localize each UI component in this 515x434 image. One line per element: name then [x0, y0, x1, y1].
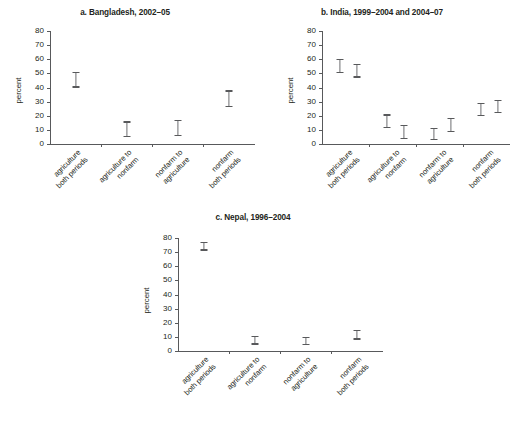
panel-bangladesh: a. Bangladesh, 2002–05 percent 80 70 60 …: [0, 8, 258, 213]
errorbar-a-2: [172, 120, 184, 136]
y-tick-a-30: [47, 102, 50, 103]
y-tick-b-0: [319, 144, 322, 145]
errorbar-cap-top: [337, 59, 344, 60]
errorbar-b-2-s2: [445, 118, 457, 132]
errorbar-cap-bottom: [337, 72, 344, 73]
errorbar-cap-bottom: [448, 131, 455, 132]
y-tick-b-40: [319, 88, 322, 89]
y-tick-b-10: [319, 130, 322, 131]
errorbar-cap-top: [252, 336, 259, 337]
x-tick-c-3: [331, 351, 332, 354]
y-axis-label-b: percent: [286, 69, 295, 113]
errorbar-b-1-s2: [398, 125, 410, 139]
y-axis-line-b: [322, 31, 323, 144]
errorbar-cap-top: [401, 125, 408, 126]
y-tick-label-a-7: 70: [24, 40, 44, 49]
errorbar-stem: [126, 121, 127, 137]
y-tick-label-a-5: 50: [24, 68, 44, 77]
errorbar-b-1-s1: [381, 114, 393, 128]
errorbar-b-3-s1: [475, 103, 487, 116]
errorbar-cap-bottom: [431, 139, 438, 140]
errorbar-cap-bottom: [175, 135, 182, 136]
errorbar-cap-top: [73, 72, 80, 73]
y-tick-a-20: [47, 116, 50, 117]
errorbar-cap-bottom: [495, 112, 502, 113]
x-tick-b-2: [416, 144, 417, 147]
errorbar-cap-top: [226, 90, 233, 91]
errorbar-cap-bottom: [401, 138, 408, 139]
y-tick-label-a-1: 10: [24, 125, 44, 134]
errorbar-cap-top: [175, 120, 182, 121]
y-tick-label-b-7: 70: [296, 40, 316, 49]
y-tick-label-c-7: 70: [152, 247, 172, 256]
errorbar-cap-bottom: [354, 338, 361, 339]
errorbar-b-0-s2: [351, 64, 363, 78]
panel-title-a: a. Bangladesh, 2002–05: [0, 8, 250, 17]
y-tick-a-10: [47, 130, 50, 131]
errorbar-a-0: [70, 72, 82, 88]
errorbar-cap-top: [431, 128, 438, 129]
x-tick-a-3: [203, 144, 204, 147]
errorbar-c-2: [300, 337, 312, 346]
errorbar-c-0: [198, 242, 210, 251]
y-axis-line-a: [50, 31, 51, 144]
errorbar-stem: [75, 72, 76, 88]
errorbar-b-3-s2: [492, 100, 504, 113]
errorbar-stem: [228, 90, 229, 107]
errorbar-cap-bottom: [226, 106, 233, 107]
x-tick-c-1: [229, 351, 230, 354]
y-tick-c-70: [175, 252, 178, 253]
errorbar-cap-top: [303, 337, 310, 338]
errorbar-cap-top: [354, 330, 361, 331]
errorbar-cap-bottom: [124, 136, 131, 137]
errorbar-cap-top: [448, 118, 455, 119]
x-tick-a-2: [152, 144, 153, 147]
y-axis-line-c: [178, 238, 179, 351]
x-tick-c-2: [280, 351, 281, 354]
y-tick-label-b-6: 60: [296, 54, 316, 63]
y-tick-label-c-5: 50: [152, 275, 172, 284]
errorbar-cap-top: [201, 242, 208, 243]
y-tick-label-b-4: 40: [296, 83, 316, 92]
y-tick-label-a-8: 80: [24, 26, 44, 35]
y-tick-label-b-1: 10: [296, 125, 316, 134]
y-tick-c-80: [175, 238, 178, 239]
y-tick-label-a-3: 30: [24, 97, 44, 106]
errorbar-cap-bottom: [201, 249, 208, 250]
y-tick-a-0: [47, 144, 50, 145]
plot-area-c: 80 70 60 50 40 30 20 10 0: [178, 238, 383, 351]
y-axis-label-a: percent: [14, 69, 23, 113]
y-tick-c-20: [175, 323, 178, 324]
y-tick-c-50: [175, 280, 178, 281]
y-axis-label-c: percent: [142, 279, 151, 323]
y-tick-label-b-5: 50: [296, 68, 316, 77]
y-tick-label-c-8: 80: [152, 233, 172, 242]
y-tick-a-60: [47, 59, 50, 60]
y-tick-label-a-0: 0: [24, 139, 44, 148]
errorbar-cap-top: [495, 100, 502, 101]
y-tick-label-b-3: 30: [296, 97, 316, 106]
x-tick-a-1: [101, 144, 102, 147]
y-tick-label-c-1: 10: [152, 332, 172, 341]
y-tick-label-c-6: 60: [152, 261, 172, 270]
y-tick-c-60: [175, 266, 178, 267]
y-tick-label-c-2: 20: [152, 318, 172, 327]
y-tick-b-20: [319, 116, 322, 117]
figure-container: a. Bangladesh, 2002–05 percent 80 70 60 …: [0, 0, 515, 434]
y-tick-label-b-8: 80: [296, 26, 316, 35]
y-tick-a-50: [47, 73, 50, 74]
errorbar-b-0-s1: [334, 59, 346, 73]
y-tick-label-c-3: 30: [152, 304, 172, 313]
errorbar-cap-top: [478, 103, 485, 104]
y-tick-b-80: [319, 31, 322, 32]
y-tick-label-a-4: 40: [24, 83, 44, 92]
panel-nepal: c. Nepal, 1996–2004 percent 80 70 60 50 …: [122, 213, 392, 425]
y-tick-b-50: [319, 73, 322, 74]
plot-area-b: 80 70 60 50 40 30 20 10 0: [322, 31, 510, 144]
y-tick-c-30: [175, 309, 178, 310]
y-tick-c-10: [175, 337, 178, 338]
errorbar-stem: [177, 120, 178, 136]
x-tick-b-3: [463, 144, 464, 147]
y-tick-b-70: [319, 45, 322, 46]
plot-area-a: 80 70 60 50 40 30 20 10 0: [50, 31, 255, 144]
